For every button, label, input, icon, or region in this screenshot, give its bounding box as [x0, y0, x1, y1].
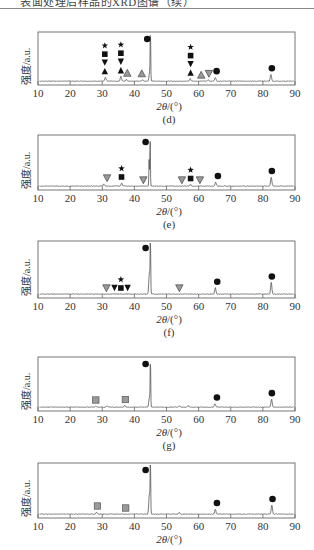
x-tick-label: 30 — [97, 520, 108, 532]
plot-area — [0, 0, 314, 550]
gray-square-marker-icon — [94, 503, 100, 509]
y-axis-label: 强度/a.u. — [18, 479, 33, 516]
xrd-trace — [40, 465, 294, 514]
plot-frame — [38, 463, 295, 518]
x-tick-label: 20 — [65, 520, 76, 532]
x-tick-label: 80 — [257, 520, 268, 532]
circle-marker-icon — [214, 500, 221, 507]
x-tick-label: 60 — [193, 520, 204, 532]
x-tick-label: 50 — [161, 520, 172, 532]
circle-marker-icon — [269, 496, 276, 503]
x-tick-label: 40 — [129, 520, 140, 532]
x-axis-label: 2θ/(°) — [12, 533, 314, 545]
gray-square-marker-icon — [123, 505, 129, 511]
x-tick-label: 90 — [290, 520, 301, 532]
circle-marker-icon — [142, 467, 149, 474]
x-tick-label: 70 — [225, 520, 236, 532]
x-tick-label: 10 — [33, 520, 44, 532]
